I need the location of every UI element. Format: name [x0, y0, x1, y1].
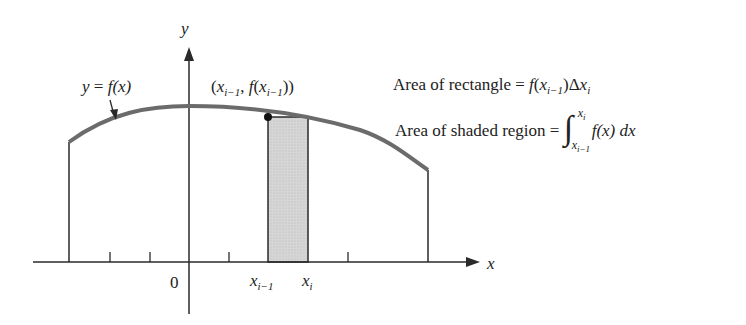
y-axis-label: y [181, 20, 189, 37]
tick-label-x-i: xi [302, 272, 313, 289]
integral: ∫xixi−1 [564, 119, 586, 136]
x-axis-arrow-icon [466, 257, 480, 267]
shaded-rectangle [268, 117, 308, 262]
tick-label-x-i-minus-1: xi−1 [250, 272, 274, 289]
curve-label: y = f(x) [82, 78, 131, 95]
x-axis-label: x [487, 255, 495, 272]
x-ticks [110, 252, 348, 262]
diagram-canvas [0, 0, 746, 325]
curve-f [69, 106, 428, 170]
sample-point [264, 113, 272, 121]
point-label: (xi−1, f(xi−1)) [211, 78, 294, 95]
area-rectangle-formula: Area of rectangle = f(xi−1)Δxi [393, 76, 590, 93]
y-axis-arrow-icon [184, 47, 194, 61]
origin-label: 0 [170, 274, 179, 291]
area-shaded-formula: Area of shaded region = ∫xixi−1f(x) dx [395, 119, 636, 139]
